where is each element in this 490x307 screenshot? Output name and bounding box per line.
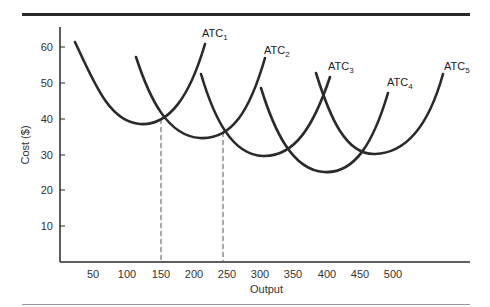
x-tick-100: 100 <box>118 268 136 280</box>
x-tick-300: 300 <box>251 268 269 280</box>
x-tick-150: 150 <box>152 268 170 280</box>
x-tick-50: 50 <box>87 268 99 280</box>
y-tick-60: 60 <box>41 41 53 53</box>
x-tick-350: 350 <box>284 268 302 280</box>
y-ticks: 10 20 30 40 50 60 <box>41 41 65 232</box>
y-tick-10: 10 <box>41 220 53 232</box>
x-tick-250: 250 <box>218 268 236 280</box>
atc2-label: ATC2 <box>264 44 290 59</box>
x-tick-450: 450 <box>351 268 369 280</box>
bottom-rule <box>22 304 470 305</box>
atc5-curve <box>316 73 443 154</box>
x-tick-200: 200 <box>185 268 203 280</box>
y-tick-30: 30 <box>41 149 53 161</box>
y-axis-label: Cost ($) <box>19 125 31 164</box>
atc3-label: ATC3 <box>328 60 354 75</box>
atc-chart: 10 20 30 40 50 60 Cost ($) 50 100 150 20… <box>0 0 490 307</box>
y-tick-20: 20 <box>41 184 53 196</box>
x-axis-label: Output <box>250 283 283 295</box>
atc2-curve <box>136 57 265 138</box>
x-tick-400: 400 <box>318 268 336 280</box>
atc3-curve <box>201 74 330 156</box>
x-ticks: 50 100 150 200 250 300 350 400 450 500 <box>87 268 402 280</box>
y-tick-50: 50 <box>41 77 53 89</box>
y-tick-40: 40 <box>41 113 53 125</box>
atc5-label: ATC5 <box>444 60 470 75</box>
atc1-curve <box>75 42 205 124</box>
atc1-label: ATC1 <box>202 27 228 42</box>
x-tick-500: 500 <box>384 268 402 280</box>
atc4-label: ATC4 <box>387 76 413 91</box>
